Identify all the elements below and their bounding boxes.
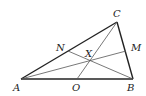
side-ca xyxy=(21,22,117,79)
label-n: N xyxy=(55,42,66,53)
cevian-bn xyxy=(68,51,133,79)
label-m: M xyxy=(130,42,142,53)
cevian-co xyxy=(77,22,117,79)
label-c: C xyxy=(113,8,121,19)
label-b: B xyxy=(126,82,134,93)
cevian-am xyxy=(21,51,126,79)
label-o: O xyxy=(72,82,80,93)
label-a: A xyxy=(12,82,20,93)
label-x: X xyxy=(84,48,93,59)
triangle-diagram: A B C N M O X xyxy=(0,0,146,96)
